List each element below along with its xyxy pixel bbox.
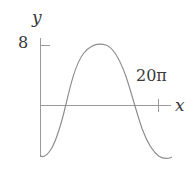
sinusoid-figure: y x 8 20π	[0, 0, 195, 171]
sinusoid-curve	[41, 44, 172, 158]
y-axis-label: y	[32, 9, 42, 26]
x-tick-label-20pi: 20π	[136, 68, 167, 84]
y-tick-label-8: 8	[18, 35, 28, 51]
axes-group	[40, 38, 171, 157]
plot-canvas	[0, 0, 195, 171]
x-axis-label: x	[175, 97, 185, 114]
